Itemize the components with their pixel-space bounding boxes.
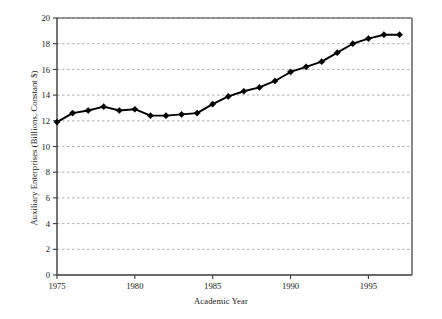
y-tick-label: 16 — [41, 65, 50, 75]
y-tick-label: 6 — [46, 193, 51, 203]
x-axis-title: Academic Year — [0, 296, 442, 306]
y-tick-label: 4 — [46, 219, 51, 229]
y-tick-label: 18 — [41, 39, 50, 49]
x-tick-label: 1980 — [126, 281, 143, 291]
y-tick-labels: 02468101214161820 — [41, 13, 50, 280]
x-tick-labels: 19751980198519901995 — [48, 281, 377, 291]
y-tick-label: 14 — [41, 90, 50, 100]
y-tick-label: 2 — [46, 244, 50, 254]
y-tick-label: 12 — [41, 116, 50, 126]
line-chart: 02468101214161820 19751980198519901995 — [0, 0, 442, 319]
figure-container: 02468101214161820 19751980198519901995 A… — [0, 0, 442, 319]
y-tick-label: 8 — [46, 167, 50, 177]
y-tick-label: 0 — [46, 270, 50, 280]
x-tick-label: 1985 — [204, 281, 221, 291]
y-tick-label: 20 — [41, 13, 50, 23]
x-tick-label: 1995 — [360, 281, 377, 291]
x-tick-label: 1990 — [282, 281, 299, 291]
x-tick-label: 1975 — [48, 281, 65, 291]
cutoff-caption-sliver — [30, 312, 280, 317]
y-tick-label: 10 — [41, 142, 50, 152]
y-axis-title: Auxiliary Enterprises (Billions, Constan… — [29, 28, 39, 268]
